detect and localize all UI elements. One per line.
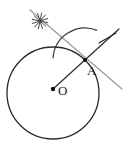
figure-background bbox=[0, 0, 132, 152]
point-dot-a bbox=[83, 58, 87, 62]
figure-canvas: OA bbox=[0, 0, 132, 152]
point-label-a: A bbox=[87, 63, 97, 78]
point-label-o: O bbox=[58, 83, 67, 98]
point-dot-o bbox=[51, 87, 55, 91]
geometry-figure: OA bbox=[0, 0, 132, 152]
